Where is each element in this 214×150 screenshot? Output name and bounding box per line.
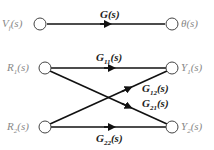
label-r1: R1(s): [7, 62, 29, 76]
gain-g11: G11(s): [96, 52, 122, 66]
node-y1: [166, 62, 178, 74]
gain-g22: G22(s): [96, 133, 123, 147]
label-vf: Vf(s): [2, 18, 22, 32]
node-vf: [34, 18, 46, 30]
label-y1: Y1(s): [181, 62, 202, 76]
gain-g: G(s): [100, 9, 120, 20]
node-r1: [39, 62, 51, 74]
gain-g12: G12(s): [142, 83, 169, 97]
node-r2: [39, 121, 51, 133]
label-y2: Y2(s): [181, 121, 202, 135]
gain-g21: G21(s): [142, 98, 169, 112]
label-theta: θ(s): [181, 18, 198, 29]
node-y2: [166, 121, 178, 133]
node-theta: [166, 18, 178, 30]
label-r2: R2(s): [7, 121, 29, 135]
